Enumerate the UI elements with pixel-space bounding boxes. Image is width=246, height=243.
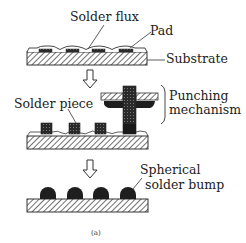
leader-line-solder-bump — [133, 178, 142, 189]
figure-caption: (a) — [91, 229, 101, 237]
substrate-1 — [27, 52, 147, 65]
label-punching: Punching — [169, 88, 229, 103]
leader-line-flux — [88, 25, 104, 49]
label-spherical: Spherical — [140, 162, 200, 177]
label-pad: Pad — [150, 23, 173, 38]
die-plate-right — [136, 93, 158, 100]
leader-line-solder-piece — [68, 109, 76, 123]
bracket — [161, 85, 165, 124]
label-mechanism: mechanism — [169, 102, 241, 117]
label-solder-bump: solder bump — [145, 177, 224, 192]
pad-4 — [119, 49, 133, 52]
solder-piece-2 — [69, 123, 80, 134]
leader-line-pad — [130, 32, 151, 48]
stage-3-reflow: Spherical solder bump — [27, 162, 224, 212]
punching-mechanism — [101, 85, 165, 134]
solder-bump-1 — [40, 187, 56, 199]
stage-2-punching: Solder piece Punching mechanism — [14, 85, 241, 149]
solder-bump-3 — [93, 187, 109, 199]
pad-3 — [92, 49, 105, 52]
punched-solder — [123, 124, 136, 134]
pad-1 — [39, 49, 52, 52]
label-solder-piece: Solder piece — [14, 96, 93, 111]
label-solder-flux: Solder flux — [70, 9, 139, 24]
label-substrate: Substrate — [166, 51, 228, 66]
substrate-3 — [27, 199, 148, 212]
die-holder-left — [104, 101, 123, 108]
die-holder-right — [136, 101, 155, 108]
solder-piece-3 — [95, 123, 106, 134]
die-plate-left — [101, 93, 123, 100]
substrate-2 — [27, 136, 148, 149]
solder-piece-1 — [41, 123, 52, 134]
solder-bump-process-diagram: Solder flux Pad Substrate Solder piece P… — [0, 0, 246, 243]
pad-2 — [66, 49, 79, 52]
down-arrow-icon — [83, 160, 97, 178]
solder-bump-2 — [67, 187, 83, 199]
down-arrow-icon — [83, 70, 97, 88]
stage-1-flux-application: Solder flux Pad Substrate — [27, 9, 228, 66]
